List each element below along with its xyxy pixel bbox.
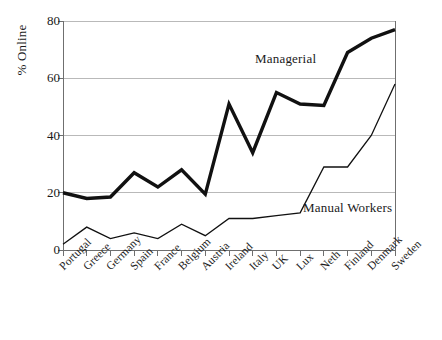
line-chart: % Online 020406080 PortugalGreeceGermany… — [0, 0, 442, 340]
y-axis-title: % Online — [14, 0, 30, 110]
series-line-managerial — [63, 30, 395, 199]
y-axis-tick-label: 20 — [34, 186, 60, 199]
plot-area — [0, 0, 442, 340]
series-label-manual-workers: Manual Workers — [303, 200, 392, 216]
y-axis-tick-label: 0 — [34, 243, 60, 256]
y-axis-tick-labels: 020406080 — [30, 0, 60, 340]
series-label-managerial: Managerial — [255, 51, 316, 67]
y-axis-tick-label: 40 — [34, 129, 60, 142]
y-axis-tick-label: 80 — [34, 14, 60, 27]
y-axis-tick-label: 60 — [34, 71, 60, 84]
